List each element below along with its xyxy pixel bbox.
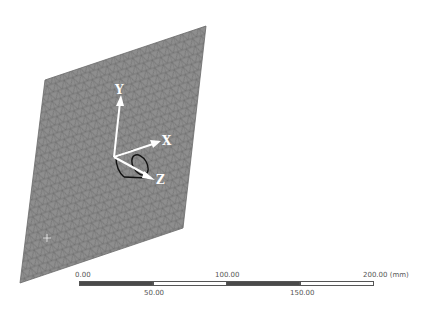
- scale-tick-50: 50.00: [144, 289, 164, 297]
- scale-tick-0: 0.00: [75, 271, 91, 279]
- triad-x-label: X: [162, 134, 171, 148]
- scale-tick-100: 100.00: [215, 271, 240, 279]
- meshed-plate: [20, 26, 206, 283]
- scale-tick-200: 200.00 (mm): [363, 271, 409, 279]
- triad-z-label: Z: [156, 173, 165, 187]
- graphics-viewport[interactable]: Y X Z 0.00 100.00 200.00 (mm) 50.00 150.…: [0, 0, 423, 315]
- mesh-view[interactable]: [0, 0, 423, 315]
- triad-y-label: Y: [115, 83, 124, 97]
- scale-tick-150: 150.00: [290, 289, 315, 297]
- scale-segment-2: [153, 281, 227, 286]
- scale-segment-4: [300, 281, 374, 286]
- scale-segment-3: [226, 281, 300, 286]
- scale-segment-1: [79, 281, 153, 286]
